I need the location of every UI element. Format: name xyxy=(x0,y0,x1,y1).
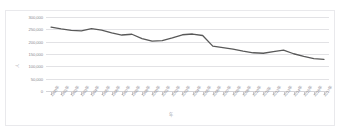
y-axis-tick-label: 100,000 xyxy=(29,64,43,69)
top-caption xyxy=(0,0,349,9)
plot-area: 050,000100,000150,000200,000250,000300,0… xyxy=(46,17,329,91)
series-polyline xyxy=(51,27,324,59)
y-axis-tick-label: 0 xyxy=(41,89,43,94)
y-axis-tick-label: 200,000 xyxy=(29,39,43,44)
chart-frame[interactable]: 人 050,000100,000150,000200,000250,000300… xyxy=(5,10,335,126)
y-axis-tick-label: 250,000 xyxy=(29,27,43,32)
y-axis-tick-label: 300,000 xyxy=(29,15,43,20)
y-axis-tick-label: 150,000 xyxy=(29,52,43,57)
x-axis-title: 年 xyxy=(6,111,336,117)
series-line-chart xyxy=(46,17,329,91)
y-axis-tick-label: 50,000 xyxy=(31,76,43,81)
chart-widget: 人 050,000100,000150,000200,000250,000300… xyxy=(0,0,349,134)
y-axis-title: 人 xyxy=(14,64,20,68)
